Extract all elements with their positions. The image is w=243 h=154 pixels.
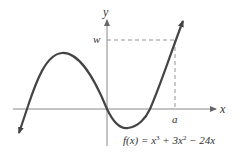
- curve-left-tail: [19, 106, 28, 133]
- w-label: w: [93, 33, 101, 45]
- function-graph: y x w a f(x) = x3 + 3x2 − 24x: [0, 0, 243, 154]
- x-axis-label: x: [219, 102, 226, 116]
- a-label: a: [172, 113, 178, 125]
- function-formula: f(x) = x3 + 3x2 − 24x: [123, 134, 215, 147]
- y-axis-label: y: [102, 5, 109, 19]
- cubic-curve: [28, 21, 183, 128]
